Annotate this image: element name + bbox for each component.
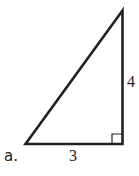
height-side-label: 4 bbox=[127, 74, 135, 90]
base-side-label: 3 bbox=[69, 148, 77, 164]
problem-label: a. bbox=[4, 149, 18, 164]
right-angle-marker bbox=[112, 134, 123, 144]
triangle bbox=[26, 11, 123, 145]
